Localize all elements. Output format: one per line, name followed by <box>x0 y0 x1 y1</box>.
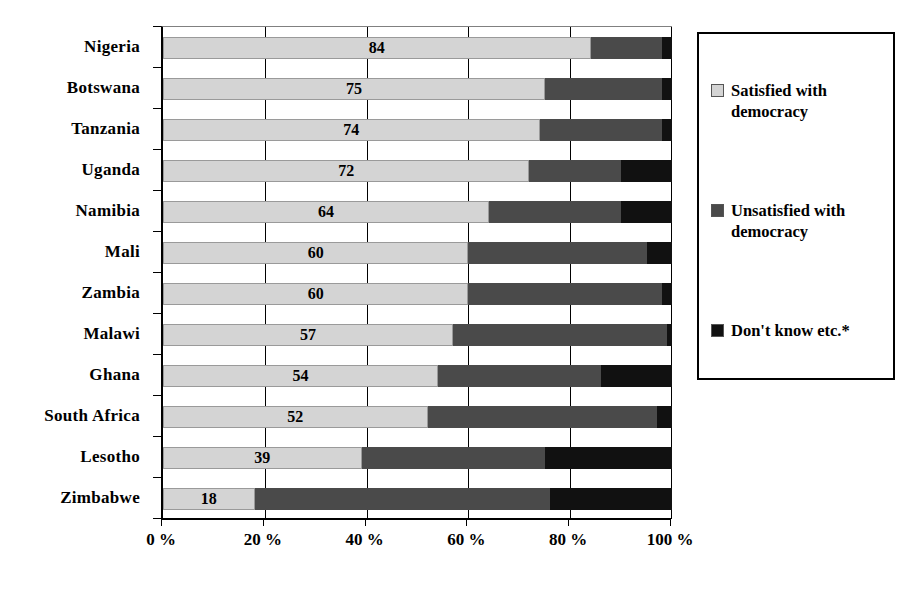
y-axis-tick <box>153 231 161 232</box>
bar-segment <box>647 242 672 264</box>
legend-item[interactable]: Satisfied with democracy <box>711 80 887 122</box>
y-axis-tick <box>153 272 161 273</box>
bar-segment <box>550 488 672 510</box>
bar-row: 74 <box>163 119 672 141</box>
gridline <box>367 27 368 519</box>
legend-label: Unsatisfied with democracy <box>731 200 845 242</box>
bar-segment <box>662 37 672 59</box>
bar-row: 57 <box>163 324 672 346</box>
gridline <box>468 27 469 519</box>
y-axis-tick <box>153 477 161 478</box>
x-axis-tick <box>161 518 162 526</box>
stacked-bar-chart: NigeriaBotswanaTanzaniaUgandaNamibiaMali… <box>0 0 912 605</box>
bar-segment <box>163 242 468 264</box>
bar-row: 72 <box>163 160 672 182</box>
bar-segment <box>601 365 672 387</box>
y-axis-tick <box>153 149 161 150</box>
bar-segment <box>662 283 672 305</box>
category-label: Ghana <box>89 365 140 385</box>
bar-segment <box>163 447 362 469</box>
category-label: Zimbabwe <box>60 488 140 508</box>
x-axis-tick <box>466 518 467 526</box>
y-axis-tick <box>153 395 161 396</box>
category-label: Tanzania <box>71 119 140 139</box>
y-axis-tick <box>153 518 161 519</box>
bar-segment <box>438 365 601 387</box>
gridline <box>570 27 571 519</box>
bar-segment <box>657 406 672 428</box>
x-axis-tick <box>568 518 569 526</box>
bar-segment <box>667 324 672 346</box>
bar-segment <box>468 242 646 264</box>
bar-row: 75 <box>163 78 672 100</box>
category-label: Mali <box>105 242 140 262</box>
y-axis-tick <box>153 354 161 355</box>
category-axis: NigeriaBotswanaTanzaniaUgandaNamibiaMali… <box>0 26 150 518</box>
x-axis-tick-label: 100 % <box>630 530 710 550</box>
plot-background <box>163 27 672 519</box>
bar-segment <box>621 160 672 182</box>
x-axis-line <box>161 518 671 520</box>
bar-segment <box>163 37 591 59</box>
bar-segment <box>163 160 529 182</box>
x-axis-tick <box>365 518 366 526</box>
plot-area: 847574726460605754523918 <box>161 26 672 519</box>
bar-row: 54 <box>163 365 672 387</box>
category-label: Zambia <box>82 283 140 303</box>
bar-row: 18 <box>163 488 672 510</box>
category-label: Lesotho <box>80 447 140 467</box>
legend-item[interactable]: Don't know etc.* <box>711 320 887 341</box>
category-label: Uganda <box>82 160 141 180</box>
bar-segment <box>545 447 672 469</box>
bar-row: 60 <box>163 283 672 305</box>
bar-row: 64 <box>163 201 672 223</box>
category-label: Botswana <box>67 78 140 98</box>
legend-item[interactable]: Unsatisfied with democracy <box>711 200 887 242</box>
bar-segment <box>489 201 621 223</box>
bar-row: 52 <box>163 406 672 428</box>
category-label: Malawi <box>83 324 140 344</box>
legend-label: Satisfied with democracy <box>731 80 827 122</box>
legend-swatch-icon <box>711 324 724 337</box>
x-axis-tick-label: 60 % <box>426 530 506 550</box>
plot-right-border <box>671 27 672 519</box>
bar-segment <box>163 324 453 346</box>
bar-segment <box>529 160 621 182</box>
x-axis-tick <box>670 518 671 526</box>
bar-segment <box>545 78 662 100</box>
bar-segment <box>163 78 545 100</box>
bar-segment <box>662 78 672 100</box>
y-axis-tick <box>153 436 161 437</box>
bar-segment <box>428 406 657 428</box>
y-axis-tick <box>153 67 161 68</box>
bar-row: 39 <box>163 447 672 469</box>
bar-segment <box>163 201 489 223</box>
y-axis-tick <box>153 313 161 314</box>
y-axis-tick <box>153 190 161 191</box>
x-axis-tick-label: 0 % <box>121 530 201 550</box>
category-label: South Africa <box>44 406 140 426</box>
gridline <box>265 27 266 519</box>
x-axis-tick-label: 40 % <box>325 530 405 550</box>
category-label: Nigeria <box>84 37 140 57</box>
bar-segment <box>540 119 662 141</box>
bar-row: 60 <box>163 242 672 264</box>
bar-segment <box>163 406 428 428</box>
legend-swatch-icon <box>711 84 724 97</box>
y-axis-tick <box>153 26 161 27</box>
bar-segment <box>163 119 540 141</box>
bar-segment <box>362 447 545 469</box>
bar-segment <box>163 488 255 510</box>
bar-segment <box>255 488 550 510</box>
bar-segment <box>163 365 438 387</box>
bar-row: 84 <box>163 37 672 59</box>
y-axis-tick <box>153 108 161 109</box>
bar-segment <box>453 324 667 346</box>
x-axis-tick-label: 20 % <box>223 530 303 550</box>
x-axis-tick <box>263 518 264 526</box>
legend-label: Don't know etc.* <box>731 320 850 341</box>
bar-segment <box>621 201 672 223</box>
x-axis-tick-label: 80 % <box>528 530 608 550</box>
bar-segment <box>468 283 661 305</box>
legend-swatch-icon <box>711 204 724 217</box>
